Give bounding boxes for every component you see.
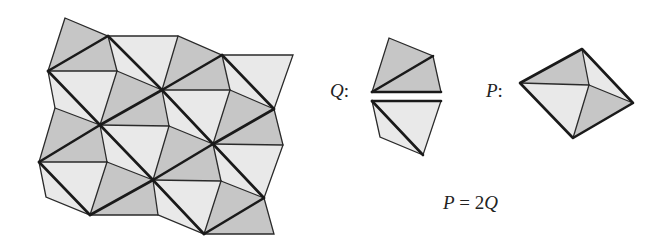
piece-p: P:: [485, 49, 633, 138]
kite-tiling: [39, 18, 293, 234]
p-label: P:: [485, 80, 503, 101]
piece-q: Q:: [330, 38, 441, 155]
tiling-figure: Q: P: P = 2Q: [0, 0, 670, 246]
equation-p-equals-2q: P = 2Q: [442, 192, 498, 213]
q-bottom-half: [372, 101, 441, 155]
q-label: Q:: [330, 80, 349, 101]
q-top-half: [372, 38, 441, 92]
